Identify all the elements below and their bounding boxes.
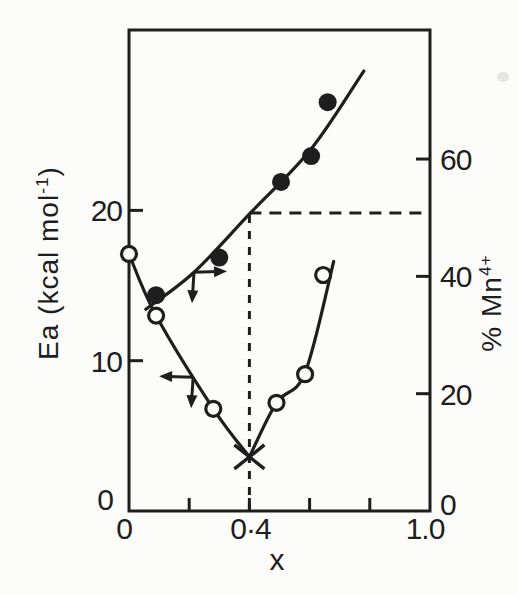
chart-canvas: 01020020406000·41.0x <box>0 0 518 595</box>
filled-circle-marker <box>272 173 290 191</box>
open-circle-marker <box>269 395 284 410</box>
axis-pointer-down-arrow-head <box>187 290 198 303</box>
right-tick-label: 60 <box>440 143 472 176</box>
open-circle-marker <box>122 246 137 261</box>
left-tick-label: 10 <box>91 345 123 378</box>
open-circle-marker <box>206 401 221 416</box>
left-tick-label: 20 <box>91 194 123 227</box>
left-tick-label: 0 <box>97 483 113 516</box>
x-tick-label: 0 <box>116 512 132 545</box>
activation-energy-curve <box>129 254 249 457</box>
filled-circle-marker <box>302 147 320 165</box>
activation-energy-curve <box>249 261 333 456</box>
axis-pointer-left-arrow-head <box>159 371 172 382</box>
x-tick-label: 0·4 <box>230 512 271 545</box>
open-circle-marker <box>149 308 164 323</box>
right-axis-title: % Mn4+ <box>476 254 508 351</box>
filled-circle-marker <box>319 93 337 111</box>
left-axis-title-paren: ) <box>33 166 64 176</box>
right-tick-label: 20 <box>440 378 472 411</box>
right-tick-label: 40 <box>440 260 472 293</box>
filled-circle-marker <box>210 249 228 267</box>
filled-circle-marker <box>147 286 165 304</box>
right-axis-title-superscript: 4+ <box>475 254 495 276</box>
x-tick-label: 1.0 <box>406 512 445 545</box>
x-axis-title: x <box>270 543 285 576</box>
left-axis-title: Ea (kcal mol-1) <box>33 166 65 360</box>
left-axis-title-text: Ea (kcal mol <box>33 194 64 360</box>
figure: 01020020406000·41.0x Ea (kcal mol-1) % M… <box>0 0 518 595</box>
plot-frame <box>129 30 430 511</box>
axis-pointer-down-arrow-head <box>186 395 197 408</box>
scan-smudge <box>497 72 509 82</box>
right-axis-title-text: % Mn <box>476 276 507 352</box>
open-circle-marker <box>316 268 331 283</box>
axis-pointer-right-arrow-head <box>214 266 227 277</box>
open-circle-marker <box>298 367 313 382</box>
left-axis-title-superscript: -1 <box>32 176 52 193</box>
